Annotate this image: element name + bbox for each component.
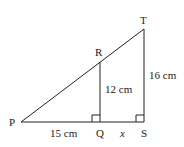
measurement-st: 16 cm (149, 69, 177, 81)
segment-pt (21, 29, 144, 122)
measurement-qs: x (119, 127, 125, 139)
vertex-label-q: Q (96, 127, 104, 139)
right-angle-marker-s (136, 115, 144, 122)
vertex-label-r: R (95, 46, 103, 58)
similar-triangles-diagram: P Q R S T 15 cm 12 cm 16 cm x (0, 0, 184, 147)
right-angle-marker-q (92, 115, 100, 122)
vertex-label-t: T (140, 14, 147, 26)
vertex-label-p: P (9, 116, 15, 128)
measurement-qr: 12 cm (105, 83, 133, 95)
vertex-label-s: S (141, 127, 147, 139)
measurement-pq: 15 cm (50, 127, 78, 139)
